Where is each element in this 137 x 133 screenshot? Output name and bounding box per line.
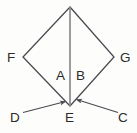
arrow-from-c <box>77 100 119 113</box>
arrow-source-label-c: C <box>118 111 128 125</box>
arrow-source-label-d: D <box>10 111 20 125</box>
vertex-label-g: G <box>120 51 131 65</box>
region-label-a: A <box>56 69 65 83</box>
arrow-from-d <box>23 102 66 113</box>
geometry-diagram: F G A B D E C <box>0 0 137 133</box>
kite-outline <box>23 7 114 106</box>
vertex-label-f: F <box>7 51 15 65</box>
region-label-b: B <box>76 69 85 83</box>
vertex-label-e: E <box>65 111 74 125</box>
